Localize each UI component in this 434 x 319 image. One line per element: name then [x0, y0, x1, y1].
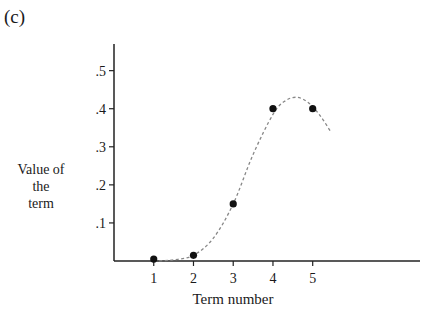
x-tick-label: 1 — [150, 271, 157, 286]
chart: .1.2.3.4.5 12345 Term number — [0, 0, 434, 319]
y-tick-label: .1 — [96, 216, 107, 231]
x-tick-label: 4 — [269, 271, 276, 286]
data-point — [190, 252, 197, 259]
x-axis-label: Term number — [192, 291, 273, 307]
data-point — [269, 105, 276, 112]
fit-curve — [154, 97, 331, 261]
x-tick-label: 3 — [230, 271, 237, 286]
data-point — [230, 200, 237, 207]
y-tick-label: .5 — [96, 64, 107, 79]
data-point — [309, 105, 316, 112]
x-tick-label: 5 — [309, 271, 316, 286]
x-tick-label: 2 — [190, 271, 197, 286]
data-point — [150, 255, 157, 262]
y-tick-label: .4 — [96, 102, 107, 117]
y-tick-label: .3 — [96, 140, 107, 155]
y-tick-label: .2 — [96, 178, 107, 193]
